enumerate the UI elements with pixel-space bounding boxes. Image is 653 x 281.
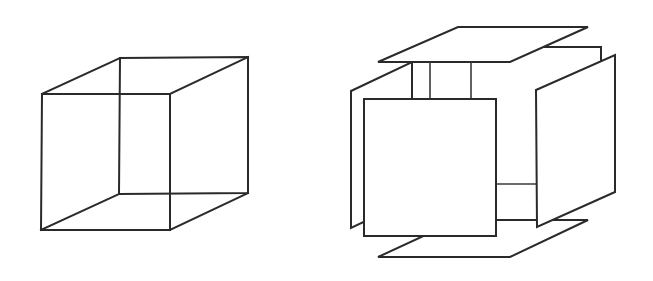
exploded-cube <box>351 27 615 257</box>
wireframe-cube <box>41 57 248 230</box>
right-panel <box>536 55 615 227</box>
cube-edge-top-right <box>170 57 248 94</box>
back-panel <box>543 47 601 61</box>
cube-edge-bottom-left <box>41 194 119 230</box>
front-panel <box>364 99 496 236</box>
top-panel <box>378 27 588 62</box>
cube-front-face <box>41 94 170 230</box>
cube-edge-bottom-right <box>170 193 248 230</box>
cube-back-face <box>119 57 248 194</box>
diagram-canvas <box>0 0 653 281</box>
cube-edge-top-left <box>42 58 120 94</box>
